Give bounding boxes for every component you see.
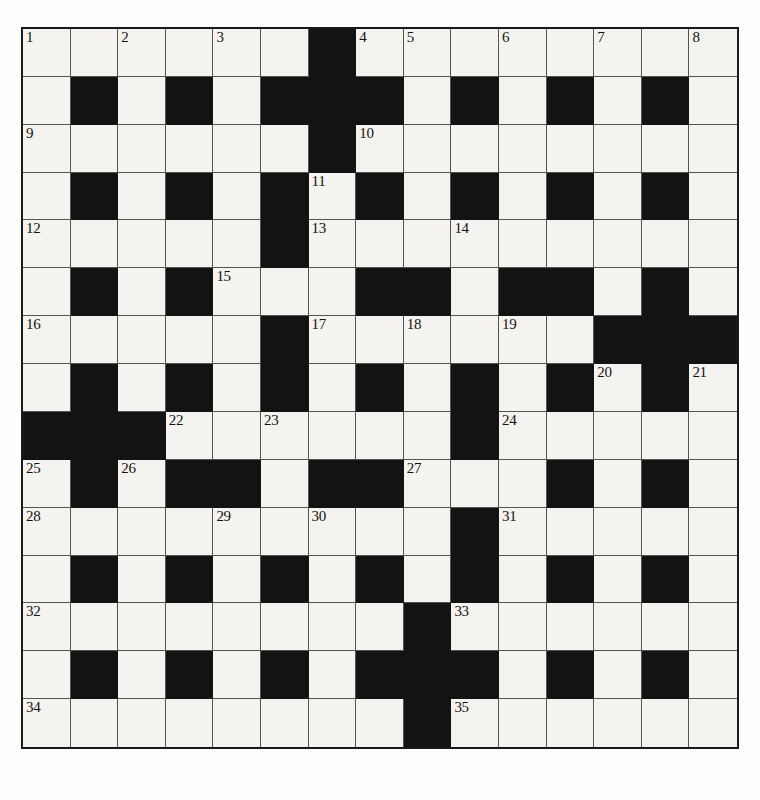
letter-cell[interactable] [23,173,71,221]
letter-cell[interactable]: 15 [213,268,261,316]
letter-cell[interactable] [261,29,309,77]
letter-cell[interactable] [547,220,595,268]
letter-cell[interactable] [547,125,595,173]
letter-cell[interactable] [23,77,71,125]
letter-cell[interactable] [642,508,690,556]
letter-cell[interactable] [499,173,547,221]
letter-cell[interactable]: 9 [23,125,71,173]
letter-cell[interactable] [118,77,166,125]
letter-cell[interactable]: 11 [309,173,357,221]
letter-cell[interactable] [261,268,309,316]
letter-cell[interactable]: 3 [213,29,261,77]
letter-cell[interactable] [166,220,214,268]
letter-cell[interactable] [71,508,119,556]
letter-cell[interactable] [23,364,71,412]
letter-cell[interactable] [689,125,737,173]
letter-cell[interactable] [213,699,261,747]
letter-cell[interactable] [118,556,166,604]
letter-cell[interactable] [118,699,166,747]
letter-cell[interactable] [404,125,452,173]
letter-cell[interactable] [499,556,547,604]
letter-cell[interactable] [642,412,690,460]
letter-cell[interactable] [689,651,737,699]
letter-cell[interactable] [71,316,119,364]
letter-cell[interactable]: 30 [309,508,357,556]
letter-cell[interactable] [451,316,499,364]
letter-cell[interactable] [404,508,452,556]
letter-cell[interactable] [499,364,547,412]
letter-cell[interactable] [166,125,214,173]
letter-cell[interactable] [118,220,166,268]
letter-cell[interactable]: 33 [451,603,499,651]
letter-cell[interactable] [404,556,452,604]
letter-cell[interactable] [356,412,404,460]
letter-cell[interactable] [404,77,452,125]
letter-cell[interactable]: 29 [213,508,261,556]
letter-cell[interactable]: 8 [689,29,737,77]
letter-cell[interactable]: 19 [499,316,547,364]
letter-cell[interactable]: 35 [451,699,499,747]
letter-cell[interactable] [404,220,452,268]
letter-cell[interactable] [309,699,357,747]
letter-cell[interactable] [594,173,642,221]
letter-cell[interactable] [404,364,452,412]
letter-cell[interactable]: 28 [23,508,71,556]
letter-cell[interactable]: 13 [309,220,357,268]
letter-cell[interactable] [547,508,595,556]
letter-cell[interactable]: 10 [356,125,404,173]
letter-cell[interactable] [118,603,166,651]
letter-cell[interactable]: 23 [261,412,309,460]
letter-cell[interactable]: 5 [404,29,452,77]
letter-cell[interactable] [71,29,119,77]
letter-cell[interactable] [213,316,261,364]
letter-cell[interactable] [118,651,166,699]
letter-cell[interactable]: 22 [166,412,214,460]
letter-cell[interactable] [261,125,309,173]
letter-cell[interactable] [689,603,737,651]
letter-cell[interactable] [499,603,547,651]
letter-cell[interactable] [594,651,642,699]
letter-cell[interactable] [499,77,547,125]
letter-cell[interactable] [213,364,261,412]
letter-cell[interactable] [642,125,690,173]
letter-cell[interactable] [309,651,357,699]
letter-cell[interactable] [213,125,261,173]
letter-cell[interactable] [213,651,261,699]
letter-cell[interactable] [261,460,309,508]
letter-cell[interactable] [261,508,309,556]
letter-cell[interactable] [547,316,595,364]
letter-cell[interactable] [594,412,642,460]
letter-cell[interactable]: 32 [23,603,71,651]
letter-cell[interactable]: 31 [499,508,547,556]
letter-cell[interactable] [71,220,119,268]
letter-cell[interactable] [356,508,404,556]
letter-cell[interactable] [166,699,214,747]
letter-cell[interactable] [23,268,71,316]
letter-cell[interactable] [166,29,214,77]
letter-cell[interactable]: 2 [118,29,166,77]
letter-cell[interactable] [118,364,166,412]
letter-cell[interactable] [118,316,166,364]
letter-cell[interactable] [166,508,214,556]
letter-cell[interactable] [594,699,642,747]
crossword-grid[interactable]: 1234567891011121314151617181920212223242… [21,27,739,749]
letter-cell[interactable]: 18 [404,316,452,364]
letter-cell[interactable]: 12 [23,220,71,268]
letter-cell[interactable] [594,603,642,651]
letter-cell[interactable] [404,173,452,221]
letter-cell[interactable] [404,412,452,460]
letter-cell[interactable] [356,699,404,747]
letter-cell[interactable] [594,268,642,316]
letter-cell[interactable]: 27 [404,460,452,508]
letter-cell[interactable] [71,125,119,173]
letter-cell[interactable] [547,603,595,651]
letter-cell[interactable] [118,125,166,173]
letter-cell[interactable]: 26 [118,460,166,508]
letter-cell[interactable] [594,556,642,604]
letter-cell[interactable] [451,268,499,316]
letter-cell[interactable]: 1 [23,29,71,77]
letter-cell[interactable] [594,508,642,556]
letter-cell[interactable]: 14 [451,220,499,268]
letter-cell[interactable] [166,603,214,651]
letter-cell[interactable] [642,220,690,268]
